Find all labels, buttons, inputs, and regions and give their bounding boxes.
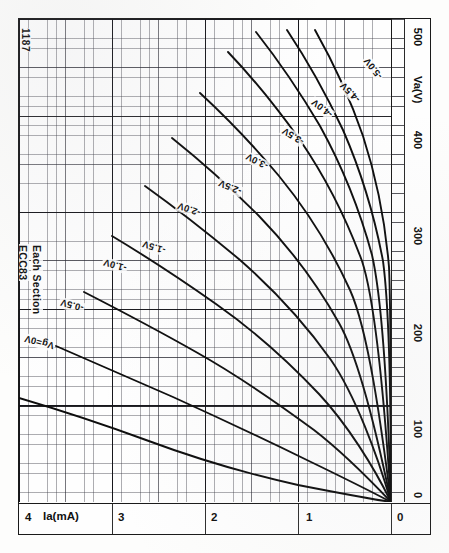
x-axis-title: Ia(mA) [43,510,79,522]
x-axis-sep-3 [112,504,113,534]
y-axis-title: Va(V) [412,76,424,102]
scope-note-label: Each Section [31,244,43,316]
plot-grid-field: 1187 ECC83 Each Section Vg=0V -0.5V -1.0… [19,19,391,502]
x-axis-sep-1 [298,504,299,534]
x-axis-ia-scale: 4 Ia(mA) 3 2 1 0 [19,503,430,533]
y-axis-va-scale: 500 Va(V) 400 300 200 100 0 [391,19,430,502]
x-tick-0: 0 [397,511,403,523]
scanned-page: 1187 ECC83 Each Section Vg=0V -0.5V -1.0… [0,0,449,553]
curve-vg-minus-0-5v [56,346,391,502]
y-tick-200: 200 [412,321,424,345]
x-axis-sep-0 [391,504,392,534]
chart-area: 1187 ECC83 Each Section Vg=0V -0.5V -1.0… [18,18,431,535]
x-tick-4: 4 [25,511,31,523]
y-tick-500: 500 [412,25,424,49]
y-axis-tick-rule [392,19,405,502]
x-tick-3: 3 [118,511,124,523]
sheet-id-label: 1187 [20,28,31,52]
y-tick-400: 400 [412,128,424,152]
curve-vg-minus-3-0v [200,93,391,502]
x-tick-2: 2 [211,511,217,523]
curve-vg-minus-1-5v [112,236,391,502]
y-tick-100: 100 [412,417,424,441]
x-axis-sep-2 [205,504,206,534]
x-tick-1: 1 [306,511,312,523]
device-name-label: ECC83 [19,244,29,281]
anode-characteristic-curves [19,19,391,502]
y-tick-300: 300 [412,224,424,248]
